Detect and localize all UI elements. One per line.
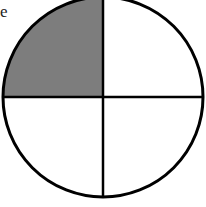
- shaded-quadrant-top-left: [3, 0, 103, 97]
- fraction-circle-diagram: [0, 0, 206, 207]
